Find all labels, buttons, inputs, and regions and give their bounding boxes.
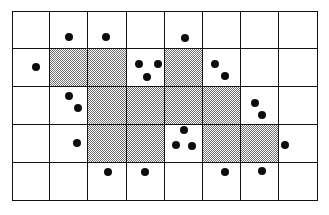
point-marker <box>102 33 110 41</box>
point-marker <box>258 111 266 119</box>
point-marker <box>221 72 229 80</box>
point-marker <box>181 34 189 42</box>
point-marker <box>143 73 151 81</box>
point-marker <box>258 167 266 175</box>
point-marker <box>221 168 229 176</box>
point-marker <box>154 60 162 68</box>
point-marker <box>211 60 219 68</box>
point-marker-layer <box>0 0 329 215</box>
point-marker <box>65 92 73 100</box>
point-marker <box>135 60 143 68</box>
point-marker <box>281 141 289 149</box>
point-marker <box>32 63 40 71</box>
point-marker <box>74 104 82 112</box>
point-marker <box>73 139 81 147</box>
point-marker <box>188 142 196 150</box>
point-marker <box>141 168 149 176</box>
point-marker <box>172 141 180 149</box>
point-marker <box>251 99 259 107</box>
point-marker <box>104 168 112 176</box>
point-marker <box>65 33 73 41</box>
figure-canvas <box>0 0 329 215</box>
point-marker <box>180 126 188 134</box>
